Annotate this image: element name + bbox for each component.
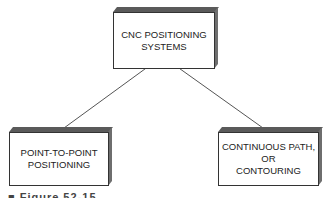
node-cnc-positioning-systems: CNC POSITIONING SYSTEMS	[113, 7, 219, 69]
edge-root-to-point-to-point	[64, 66, 149, 128]
edge-root-to-continuous-path	[176, 66, 263, 128]
node-point-to-point-positioning: POINT-TO-POINT POSITIONING	[9, 127, 113, 186]
figure-caption: ■ Figure 52-15	[8, 191, 97, 198]
node-label: POINT-TO-POINT POSITIONING	[9, 132, 109, 186]
node-label: CNC POSITIONING SYSTEMS	[113, 12, 215, 69]
node-label: CONTINUOUS PATH, OR CONTOURING	[218, 132, 319, 186]
node-continuous-path-or-contouring: CONTINUOUS PATH, OR CONTOURING	[218, 127, 323, 186]
